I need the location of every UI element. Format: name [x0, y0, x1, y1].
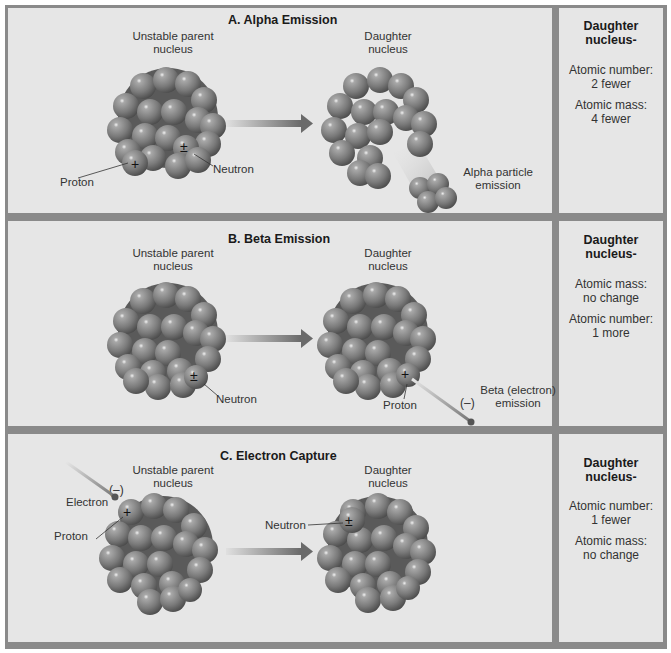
side-fact-2: Atomic mass:no change	[559, 534, 663, 562]
alpha-side-panel: Daughternucleus- Atomic number:2 fewer A…	[559, 8, 663, 213]
parent-nucleus-icon: ±	[107, 282, 226, 400]
side-heading: Daughternucleus-	[559, 233, 663, 261]
daughter-nucleus-icon	[321, 67, 457, 213]
svg-text:+: +	[401, 366, 409, 382]
arrow-icon	[226, 114, 313, 133]
electron-icon	[468, 419, 475, 426]
parent-nucleus-icon: +	[99, 493, 218, 615]
alpha-emission-panel: A. Alpha Emission Unstable parentnucleus…	[8, 8, 552, 213]
side-fact-2: Atomic number:1 more	[559, 312, 663, 340]
arrow-icon	[226, 329, 313, 348]
side-heading: Daughternucleus-	[559, 19, 663, 47]
electron-capture-illustration: + ±	[8, 434, 552, 642]
arrow-icon	[226, 542, 313, 561]
alpha-emission-illustration: + ±	[8, 8, 552, 213]
svg-text:±: ±	[180, 139, 188, 155]
daughter-nucleus-icon: ±	[317, 493, 436, 613]
beta-emission-panel: B. Beta Emission Unstable parentnucleus …	[8, 221, 552, 426]
electron-icon	[112, 494, 119, 501]
svg-text:+: +	[131, 156, 139, 172]
side-fact-1: Atomic mass:no change	[559, 277, 663, 305]
svg-text:+: +	[123, 504, 131, 520]
svg-text:±: ±	[345, 513, 353, 529]
svg-text:±: ±	[190, 368, 198, 384]
side-heading: Daughternucleus-	[559, 456, 663, 484]
electron-capture-panel: C. Electron Capture Unstable parentnucle…	[8, 434, 552, 642]
parent-nucleus-icon: + ±	[107, 67, 226, 179]
beta-emission-illustration: ± +	[8, 221, 552, 426]
capture-side-panel: Daughternucleus- Atomic number:1 fewer A…	[559, 434, 663, 642]
side-fact-1: Atomic number:1 fewer	[559, 499, 663, 527]
side-fact-2: Atomic mass:4 fewer	[559, 98, 663, 126]
beta-side-panel: Daughternucleus- Atomic mass:no change A…	[559, 221, 663, 426]
side-fact-1: Atomic number:2 fewer	[559, 63, 663, 91]
